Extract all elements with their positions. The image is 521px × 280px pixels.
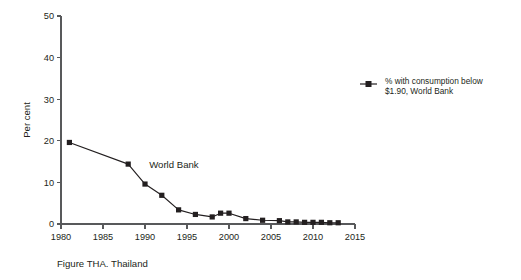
world-bank-annotation: World Bank <box>149 159 199 170</box>
x-tick-label: 2015 <box>345 232 365 242</box>
y-axis: 01020304050 <box>44 11 61 229</box>
data-point-marker[interactable] <box>310 220 315 225</box>
data-point-marker[interactable] <box>193 212 198 217</box>
chart-legend[interactable]: % with consumption below$1.90, World Ban… <box>360 76 484 96</box>
data-point-marker[interactable] <box>285 219 290 224</box>
y-tick-label: 40 <box>44 53 54 63</box>
figure-container: 01020304050 1980198519901995200020052010… <box>0 0 521 280</box>
data-point-marker[interactable] <box>336 220 341 225</box>
data-point-marker[interactable] <box>294 219 299 224</box>
x-tick-label: 1985 <box>93 232 113 242</box>
data-point-marker[interactable] <box>126 162 131 167</box>
x-tick-label: 1980 <box>51 232 71 242</box>
x-tick-label: 2000 <box>219 232 239 242</box>
chart-canvas: 01020304050 1980198519901995200020052010… <box>0 0 521 280</box>
data-point-marker[interactable] <box>176 207 181 212</box>
series-annotation: World Bank <box>149 159 199 170</box>
data-point-marker[interactable] <box>260 218 265 223</box>
x-tick-label: 2010 <box>303 232 323 242</box>
x-tick-label: 1995 <box>177 232 197 242</box>
y-tick-label: 10 <box>44 178 54 188</box>
data-point-marker[interactable] <box>218 211 223 216</box>
data-point-marker[interactable] <box>159 193 164 198</box>
data-point-marker[interactable] <box>327 220 332 225</box>
data-point-marker[interactable] <box>319 220 324 225</box>
y-tick-label: 0 <box>49 219 54 229</box>
data-point-marker[interactable] <box>243 216 248 221</box>
data-point-marker[interactable] <box>226 211 231 216</box>
y-axis-title: Per cent <box>21 102 32 138</box>
y-tick-label: 50 <box>44 11 54 21</box>
x-tick-label: 1990 <box>135 232 155 242</box>
data-point-marker[interactable] <box>277 218 282 223</box>
x-tick-label: 2005 <box>261 232 281 242</box>
legend-square-marker <box>366 81 372 87</box>
y-axis-title-label: Per cent <box>21 102 32 138</box>
data-point-marker[interactable] <box>302 220 307 225</box>
x-axis: 19801985199019952000200520102015 <box>51 224 365 242</box>
y-tick-label: 30 <box>44 95 54 105</box>
data-point-marker[interactable] <box>142 181 147 186</box>
data-point-marker[interactable] <box>67 140 72 145</box>
series-polyline <box>69 142 338 222</box>
data-point-marker[interactable] <box>210 214 215 219</box>
data-series-world-bank[interactable] <box>67 140 341 225</box>
y-tick-label: 20 <box>44 136 54 146</box>
figure-caption: Figure THA. Thailand <box>57 258 148 269</box>
legend-label-line1: % with consumption below <box>385 76 484 86</box>
legend-label-line2: $1.90, World Bank <box>385 86 454 96</box>
